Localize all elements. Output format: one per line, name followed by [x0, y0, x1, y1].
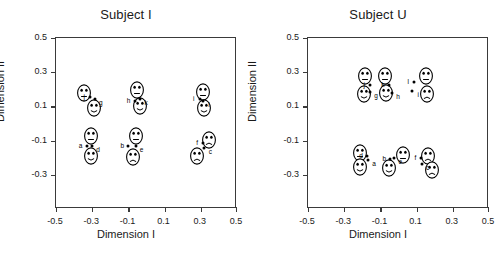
data-point-label: j — [84, 93, 85, 100]
data-point-label: b — [120, 142, 124, 149]
data-point-label: c — [426, 164, 429, 171]
data-point-label: e — [398, 157, 402, 164]
x-tick-subject-u-1 — [344, 207, 345, 212]
x-ticklabel-subject-u-4: 0.3 — [446, 216, 459, 226]
data-point-label: d — [96, 145, 100, 152]
x-axis-title-subject-u: Dimension I — [252, 228, 504, 240]
face-icon — [381, 159, 396, 177]
data-point — [420, 156, 423, 159]
x-ticklabel-subject-i-4: 0.3 — [194, 216, 207, 226]
y-ticklabel-subject-u-4: 0.5 — [252, 32, 299, 42]
data-point — [89, 96, 92, 99]
face-icon — [125, 148, 140, 166]
y-tick-subject-u-2 — [303, 106, 308, 107]
y-ticklabel-subject-u-3: 0.3 — [252, 66, 299, 76]
panel-subject-i: Subject I-0.3-0.10.10.30.5-0.5-0.3-0.10.… — [0, 0, 252, 254]
data-point-label: d — [359, 152, 363, 159]
y-tick-subject-u-1 — [303, 141, 308, 142]
panel-title-subject-u: Subject U — [252, 7, 504, 22]
data-point-label: k — [144, 98, 147, 105]
data-point — [393, 156, 396, 159]
face-icon — [128, 127, 143, 145]
data-point — [127, 145, 130, 148]
y-tick-subject-i-1 — [51, 141, 56, 142]
data-point-label: g — [374, 92, 378, 99]
data-point-label: a — [79, 141, 83, 148]
data-point-label: e — [140, 146, 144, 153]
data-point-label: j — [364, 81, 365, 88]
data-point-label: l — [208, 100, 209, 107]
data-point — [420, 163, 423, 166]
x-ticklabel-subject-u-5: 0.5 — [482, 216, 495, 226]
data-point-label: a — [372, 160, 376, 167]
y-ticklabel-subject-i-1: -0.1 — [0, 135, 47, 145]
data-point-label: g — [99, 98, 103, 105]
data-point-label: l — [407, 78, 408, 85]
data-point — [139, 97, 142, 100]
y-ticklabel-subject-i-3: 0.3 — [0, 66, 47, 76]
y-tick-subject-u-3 — [303, 72, 308, 73]
face-icon — [84, 127, 99, 145]
data-point — [389, 157, 392, 160]
data-point — [203, 146, 206, 149]
x-ticklabel-subject-i-5: 0.5 — [230, 216, 243, 226]
data-point — [367, 159, 370, 162]
face-icon — [395, 146, 410, 164]
data-point-label: h — [127, 96, 131, 103]
x-ticklabel-subject-u-0: -0.5 — [299, 216, 315, 226]
x-tick-subject-i-3 — [165, 207, 166, 212]
face-icon — [378, 67, 393, 85]
x-ticklabel-subject-u-3: 0.1 — [409, 216, 422, 226]
y-axis-title-subject-u: Dimension II — [246, 61, 258, 122]
x-tick-subject-u-2 — [380, 207, 381, 212]
data-point — [202, 99, 205, 102]
mds-figure: Subject I-0.3-0.10.10.30.5-0.5-0.3-0.10.… — [0, 0, 504, 254]
y-axis-title-subject-i: Dimension II — [0, 61, 6, 122]
data-point-label: h — [396, 93, 400, 100]
data-point — [391, 92, 394, 95]
x-tick-subject-i-5 — [236, 207, 237, 212]
data-point — [366, 155, 369, 158]
data-point — [368, 91, 371, 94]
y-tick-subject-u-4 — [303, 38, 308, 39]
y-tick-subject-i-3 — [51, 72, 56, 73]
face-icon — [419, 85, 434, 103]
data-point — [411, 89, 414, 92]
panel-title-subject-i: Subject I — [0, 7, 252, 22]
data-point — [202, 142, 205, 145]
data-point-label: i — [418, 90, 419, 97]
x-tick-subject-i-0 — [56, 207, 57, 212]
y-tick-subject-i-0 — [51, 175, 56, 176]
data-point-label: c — [209, 147, 212, 154]
x-tick-subject-u-3 — [417, 207, 418, 212]
x-axis-title-subject-i: Dimension I — [0, 228, 252, 240]
x-tick-subject-u-5 — [488, 207, 489, 212]
x-tick-subject-i-1 — [92, 207, 93, 212]
data-point — [85, 144, 88, 147]
x-ticklabel-subject-u-2: -0.1 — [372, 216, 388, 226]
face-icon — [190, 147, 205, 165]
data-point-label: b — [382, 154, 386, 161]
y-tick-subject-i-2 — [51, 106, 56, 107]
data-point — [134, 145, 137, 148]
x-ticklabel-subject-i-2: -0.1 — [120, 216, 136, 226]
data-point — [413, 81, 416, 84]
data-point — [93, 97, 96, 100]
data-point — [91, 144, 94, 147]
data-point — [369, 84, 372, 87]
y-ticklabel-subject-u-2: 0.1 — [252, 100, 299, 110]
data-point-label: k — [381, 80, 384, 87]
data-point-label: i — [193, 94, 194, 101]
data-point — [387, 83, 390, 86]
plot-area-subject-u — [307, 37, 488, 208]
y-ticklabel-subject-u-0: -0.3 — [252, 169, 299, 179]
y-tick-subject-i-4 — [51, 38, 56, 39]
x-tick-subject-i-4 — [201, 207, 202, 212]
y-ticklabel-subject-i-4: 0.5 — [0, 32, 47, 42]
x-tick-subject-u-0 — [308, 207, 309, 212]
x-ticklabel-subject-i-3: 0.1 — [157, 216, 170, 226]
x-tick-subject-u-4 — [453, 207, 454, 212]
panel-subject-u: Subject U-0.3-0.10.10.30.5-0.5-0.3-0.10.… — [252, 0, 504, 254]
x-ticklabel-subject-i-0: -0.5 — [47, 216, 63, 226]
y-ticklabel-subject-i-0: -0.3 — [0, 169, 47, 179]
